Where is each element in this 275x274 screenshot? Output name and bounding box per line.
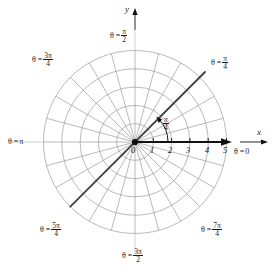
theta-3pi-2-label: θ = 3π2 bbox=[122, 248, 143, 264]
polar-spoke-15 bbox=[135, 118, 223, 142]
polar-spoke-75 bbox=[135, 54, 159, 142]
polar-spoke-345 bbox=[135, 142, 223, 166]
angle-arc-denominator: 4 bbox=[163, 124, 169, 132]
theta-0-eq: θ = bbox=[234, 148, 245, 156]
x-tick-label-0: 0 bbox=[131, 145, 135, 155]
angle-arc-label: π4 bbox=[163, 116, 169, 132]
x-tick-label-1: 1 bbox=[150, 145, 154, 155]
theta-0-value: 0 bbox=[245, 147, 249, 156]
theta-pi-4-denominator: 4 bbox=[222, 63, 228, 71]
x-tick-label-5: 5 bbox=[223, 145, 227, 155]
theta-5pi-4-eq: θ = bbox=[40, 226, 51, 234]
theta-pi-eq: θ = bbox=[8, 138, 19, 146]
x-axis-outer-arrowhead bbox=[261, 139, 268, 144]
theta-pi-label: θ = π bbox=[8, 138, 23, 146]
polar-grid-figure: y x θ = π2 θ = 3π4 θ = π4 θ = π θ = 0 θ … bbox=[0, 0, 275, 274]
x-tick-label-2: 2 bbox=[168, 145, 172, 155]
polar-spoke-150 bbox=[56, 96, 135, 142]
theta-pi-2-eq: θ = bbox=[110, 32, 121, 40]
y-axis bbox=[132, 8, 137, 30]
theta-7pi-4-fraction: 7π4 bbox=[212, 222, 222, 238]
theta-pi-4-eq: θ = bbox=[211, 59, 222, 67]
polar-spoke-165 bbox=[47, 118, 135, 142]
polar-spoke-135 bbox=[70, 77, 135, 142]
theta-7pi-4-eq: θ = bbox=[201, 226, 212, 234]
theta-pi-4-fraction: π4 bbox=[222, 55, 228, 71]
theta-7pi-4-label: θ = 7π4 bbox=[201, 222, 222, 238]
theta-3pi-4-eq: θ = bbox=[32, 56, 43, 64]
angle-arc-fraction: π4 bbox=[163, 116, 169, 132]
theta-5pi-4-label: θ = 5π4 bbox=[40, 222, 61, 238]
polar-spoke-300 bbox=[135, 142, 181, 221]
theta-pi-4-ray bbox=[70, 72, 205, 207]
theta-3pi-2-denominator: 2 bbox=[133, 256, 143, 264]
theta-pi-value: π bbox=[19, 137, 23, 146]
y-axis-arrowhead bbox=[132, 8, 137, 15]
theta-3pi-4-label: θ = 3π4 bbox=[32, 52, 53, 68]
x-axis-label: x bbox=[257, 128, 261, 137]
polar-spoke-120 bbox=[89, 63, 135, 142]
theta-0-label: θ = 0 bbox=[234, 148, 249, 156]
theta-pi-4-label: θ = π4 bbox=[211, 55, 228, 71]
x-tick-label-3: 3 bbox=[186, 145, 190, 155]
theta-3pi-2-eq: θ = bbox=[122, 252, 133, 260]
theta-3pi-4-fraction: 3π4 bbox=[43, 52, 53, 68]
theta-pi-2-fraction: π2 bbox=[121, 28, 127, 44]
theta-3pi-4-denominator: 4 bbox=[43, 60, 53, 68]
theta-5pi-4-denominator: 4 bbox=[51, 230, 61, 238]
y-axis-label: y bbox=[125, 5, 129, 14]
theta-7pi-4-denominator: 4 bbox=[212, 230, 222, 238]
theta-3pi-2-fraction: 3π2 bbox=[133, 248, 143, 264]
polar-spoke-105 bbox=[111, 54, 135, 142]
x-axis bbox=[135, 138, 268, 146]
x-tick-label-4: 4 bbox=[205, 145, 209, 155]
theta-5pi-4-fraction: 5π4 bbox=[51, 222, 61, 238]
polar-spoke-330 bbox=[135, 142, 214, 188]
polar-spoke-255 bbox=[111, 142, 135, 230]
axis-guides bbox=[10, 30, 135, 252]
theta-pi-2-denominator: 2 bbox=[121, 36, 127, 44]
theta-pi-2-label: θ = π2 bbox=[110, 28, 127, 44]
ray-line bbox=[70, 72, 205, 207]
polar-spoke-285 bbox=[135, 142, 159, 230]
polar-spoke-195 bbox=[47, 142, 135, 166]
